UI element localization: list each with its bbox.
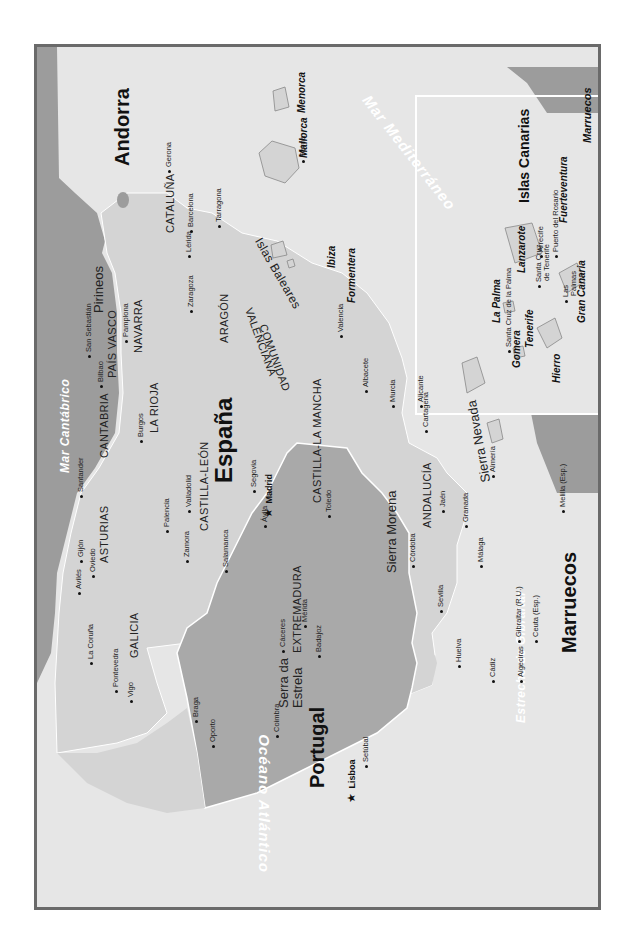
city-santa-cruz-tenerife-line2: de Tenerife [543,244,551,281]
island-lanzarote: Lanzarote [517,226,527,273]
city-tarragona: Tarragona [215,188,223,228]
city-las-palmas-line2: Palmas [570,271,578,296]
city-almeria: Almería [489,446,497,478]
city-oporto: Oporto [209,719,217,748]
region-cantabria: CANTABRIA [99,393,110,458]
mountain-pirineos: Pirineos [92,266,105,313]
city-cadiz: Cádiz [489,658,497,683]
city-pontevedra: Pontevedra [112,649,120,693]
island-formentera: Formentera [347,248,357,303]
region-aragon: ARAGÓN [219,294,230,343]
city-puerto-rosario: Puerto del Rosario [552,190,560,258]
city-melilla: Melilla (Esp.) [559,464,567,513]
city-granada: Granada [462,493,470,528]
city-palencia: Palencia [163,498,171,533]
island-gomera: Gomera [512,330,522,368]
region-pais-vasco: PAÍS VASCO [107,310,118,378]
city-santa-cruz-palma: Santa Cruz de la Palma [505,268,513,353]
island-mallorca: Mallorca [299,117,309,158]
region-castilla-la-mancha: CASTILLA-LA MANCHA [312,378,323,503]
city-vigo: Vigo [127,682,135,703]
region-asturias: ASTURIAS [99,506,110,563]
region-cataluna: CATALUÑA [165,174,176,233]
region-navarra: NAVARRA [133,299,144,353]
city-santander: Santander [77,457,85,498]
city-san-sebastian: San Sebastián [85,303,93,358]
city-barcelona: Barcelona [187,193,195,233]
city-avila: Ávila [261,506,269,528]
map-frame: España Portugal Andorra Marruecos ★ Madr… [34,44,601,910]
capital-lisboa: ★ Lisboa [342,760,358,803]
city-aviles: Avilés [75,569,83,595]
region-castilla-leon: CASTILLA-LEÓN [199,442,210,531]
city-segovia: Segovia [250,460,258,493]
country-label-marruecos: Marruecos [559,552,579,653]
island-fuerteventura: Fuerteventura [559,156,569,223]
city-bilbao: Bilbao [97,361,105,388]
capital-star-icon: ★ [345,793,357,803]
city-merida: Mérida [301,599,309,628]
mountain-sierra-morena: Sierra Morena [385,491,398,573]
city-gibraltar: Gibraltar (R.U.) [515,586,523,643]
city-murcia: Murcia [389,379,397,408]
city-caceres: Cáceres [279,619,287,653]
city-badajoz: Badajoz [315,625,323,658]
city-albacete: Albacete [362,358,370,393]
city-toledo: Toledo [325,490,333,518]
city-pamplona: Pamplona [122,303,130,343]
country-label-spain: España [212,398,236,483]
city-coimbra: Coimbra [273,704,281,738]
city-jaen: Jaén [439,491,447,513]
sea-oceano-atlantico-canarias: Océano Atlántico [597,164,601,303]
city-braga: Braga [192,697,200,723]
canarias-inset-frame [415,95,601,415]
island-la-palma: La Palma [492,279,502,323]
canarias-title: Islas Canarias [517,109,531,203]
andorra-land [117,192,129,208]
city-valencia: Valencia [337,304,345,338]
canarias-marruecos: Marruecos [582,87,593,143]
city-ceuta: Ceuta (Esp.) [532,595,540,643]
city-setubal: Setúbal [362,737,370,768]
city-cordoba: Córdoba [409,533,417,568]
city-huelva: Huelva [455,639,463,668]
city-valladolid: Valladolid [185,475,193,513]
city-gerona: Gerona [165,142,173,173]
country-label-andorra: Andorra [112,88,132,166]
island-hierro: Hierro [552,354,562,383]
region-galicia: GALICIA [129,612,140,658]
city-malaga: Málaga [477,537,485,568]
island-tenerife: Tenerife [525,309,535,348]
city-salamanca: Salamanca [222,529,230,573]
city-zaragoza: Zaragoza [187,275,195,313]
city-algeciras: Algeciras [517,646,525,683]
mountain-serra-estrela: Estrela [291,668,304,708]
region-la-rioja: LA RIOJA [149,382,160,433]
map-canvas: España Portugal Andorra Marruecos ★ Madr… [37,47,601,910]
island-ibiza: Ibiza [327,246,337,268]
city-oviedo: Oviedo [89,548,97,578]
city-sevilla: Sevilla [437,585,445,613]
formentera-island [287,259,295,268]
sea-mar-cantabrico: Mar Cantábrico [59,379,71,473]
city-lerida: Lérida [185,231,193,258]
country-label-portugal: Portugal [307,707,327,788]
island-menorca: Menorca [297,72,307,113]
city-zamora: Zamora [183,531,191,563]
city-la-coruna: La Coruña [87,624,95,665]
mountain-serra-estrela: Serra da [277,658,290,708]
city-burgos: Burgos [137,413,145,443]
sea-oceano-atlantico: Océano Atlántico [257,734,272,873]
region-andalucia: ANDALUCÍA [422,462,433,528]
island-gran-canaria: Gran Canaria [577,260,587,323]
city-alicante: Alicante [417,375,425,408]
city-gijon: Gijón [77,539,85,563]
